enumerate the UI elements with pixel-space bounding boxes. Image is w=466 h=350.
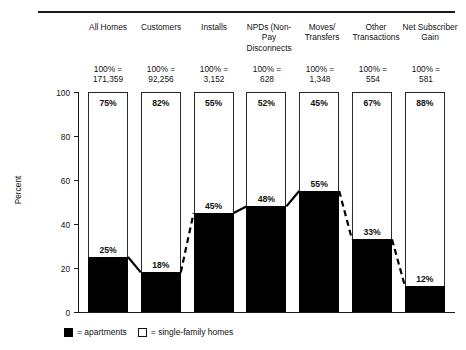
trend-line-segment [286, 191, 299, 206]
column-total-all-homes: 100% = 171,359 [82, 64, 134, 85]
trend-line-segment [181, 213, 194, 272]
trend-line-segment [234, 206, 247, 213]
bar-label-apartments: 18% [141, 260, 181, 270]
chart-figure: All Homes Customers Installs NPDs (Non-P… [0, 0, 466, 350]
bar-label-single-family-homes: 55% [194, 98, 234, 108]
y-axis-title: Percent [13, 160, 23, 220]
x-axis-line [78, 312, 455, 313]
y-tick-label-40: 40 [44, 220, 70, 230]
bar-label-single-family-homes: 75% [88, 98, 128, 108]
bar-label-apartments: 33% [352, 227, 392, 237]
white-square-icon [138, 328, 147, 337]
legend-label-apartments: = apartments [77, 327, 127, 337]
column-header-other-transactions: Other Transactions [347, 22, 405, 43]
trend-line-segment [339, 191, 352, 239]
bar-segment-apartments [299, 191, 339, 312]
column-total-npds: 100% = 628 [241, 64, 293, 85]
bar-segment-apartments [88, 257, 128, 312]
y-tick-label-60: 60 [44, 176, 70, 186]
bar-label-apartments: 48% [246, 194, 286, 204]
y-tick-label-100: 100 [44, 88, 70, 98]
bar-segment-apartments [352, 239, 392, 312]
trend-line-segment [392, 239, 405, 285]
bar-label-apartments: 55% [299, 179, 339, 189]
column-total-other-transactions: 100% = 554 [347, 64, 399, 85]
y-axis-line [78, 92, 79, 313]
bar-label-single-family-homes: 45% [299, 98, 339, 108]
column-header-installs: Installs [188, 22, 240, 32]
column-header-all-homes: All Homes [82, 22, 134, 32]
column-total-moves-transfers: 100% = 1,348 [294, 64, 346, 85]
y-tick-label-0: 0 [44, 308, 70, 318]
column-header-customers: Customers [134, 22, 188, 32]
column-total-customers: 100% = 92,256 [135, 64, 187, 85]
legend-label-single-family-homes: = single-family homes [151, 327, 233, 337]
bar-segment-apartments [246, 206, 286, 312]
bar-label-apartments: 45% [194, 201, 234, 211]
bar-label-apartments: 12% [405, 274, 445, 284]
column-header-moves-transfers: Moves/ Transfers [295, 22, 349, 43]
column-total-net-subscriber-gain: 100% = 581 [400, 64, 452, 85]
bar-label-single-family-homes: 82% [141, 98, 181, 108]
bar-label-single-family-homes: 52% [246, 98, 286, 108]
bar-label-single-family-homes: 67% [352, 98, 392, 108]
column-header-npds: NPDs (Non-Pay Disconnects [240, 22, 298, 53]
bar-segment-apartments [141, 272, 181, 312]
bar-segment-apartments [194, 213, 234, 312]
column-total-installs: 100% = 3,152 [188, 64, 240, 85]
bar-label-single-family-homes: 88% [405, 98, 445, 108]
bar-label-apartments: 25% [88, 245, 128, 255]
y-tick-label-20: 20 [44, 264, 70, 274]
trend-line-segment [128, 257, 141, 272]
chart-legend: = apartments = single-family homes [64, 327, 233, 337]
black-square-icon [64, 328, 73, 337]
column-header-net-subscriber-gain: Net Subscriber Gain [402, 22, 458, 43]
y-tick-label-80: 80 [44, 132, 70, 142]
top-rule-divider [38, 11, 455, 13]
bar-segment-apartments [405, 286, 445, 312]
